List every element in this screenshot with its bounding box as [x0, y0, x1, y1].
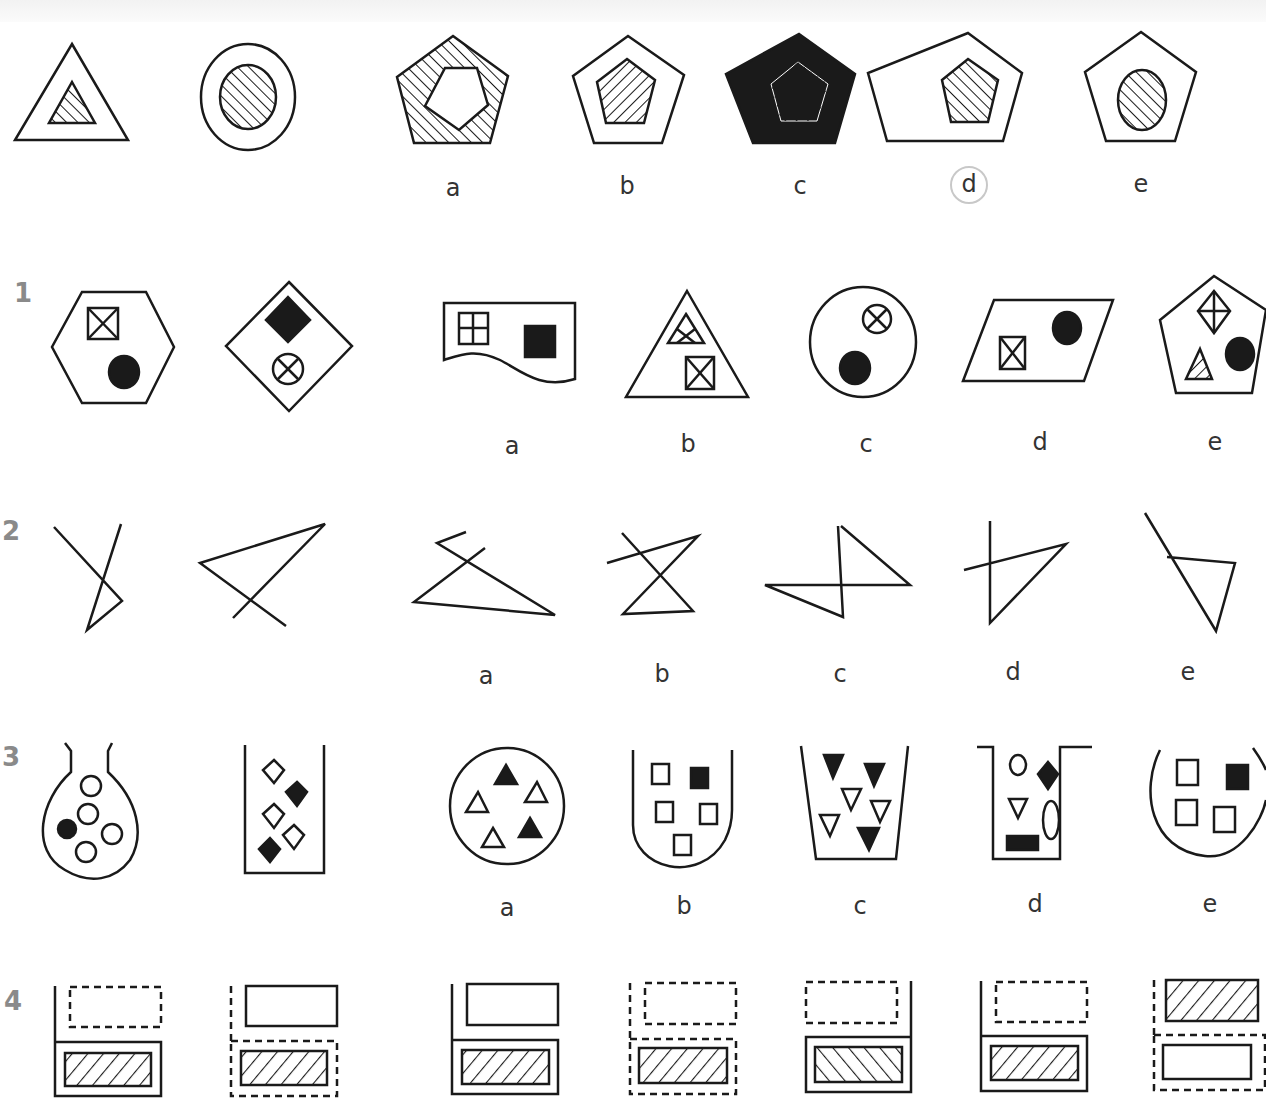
option-label-q1-e[interactable]: e — [1195, 428, 1235, 456]
option-label-q3-b[interactable]: b — [664, 892, 704, 920]
question-number-2: 2 — [2, 516, 20, 546]
q4-option-e[interactable] — [1154, 980, 1265, 1090]
option-label-q2-a[interactable]: a — [466, 662, 506, 690]
q2-stem-1 — [54, 524, 122, 630]
q4-option-b[interactable] — [630, 983, 736, 1094]
option-label-example-b[interactable]: b — [607, 172, 647, 200]
question-number-1: 1 — [14, 278, 32, 308]
q2-option-b[interactable] — [607, 533, 698, 614]
q2-stem-2 — [200, 524, 325, 626]
option-label-example-e[interactable]: e — [1121, 170, 1161, 198]
question-number-4: 4 — [4, 986, 22, 1016]
q3-stem-2 — [245, 745, 324, 873]
q3-option-b[interactable] — [633, 750, 732, 867]
option-label-q3-a[interactable]: a — [487, 894, 527, 922]
q3-option-d[interactable] — [977, 747, 1092, 859]
option-label-q2-d[interactable]: d — [993, 658, 1033, 686]
q3-option-a[interactable] — [450, 748, 564, 864]
option-label-q2-c[interactable]: c — [820, 660, 860, 688]
q1-option-a[interactable] — [444, 303, 575, 382]
question-number-3: 3 — [2, 742, 20, 772]
option-label-q1-c[interactable]: c — [846, 430, 886, 458]
example-option-e[interactable] — [1085, 32, 1196, 141]
option-label-example-a[interactable]: a — [433, 174, 473, 202]
example-stem-1 — [15, 44, 128, 140]
option-label-q3-d[interactable]: d — [1015, 890, 1055, 918]
option-label-q1-b[interactable]: b — [668, 430, 708, 458]
example-stem-2 — [201, 44, 295, 150]
q4-option-d[interactable] — [981, 981, 1087, 1091]
q4-option-a[interactable] — [452, 984, 558, 1094]
option-label-q1-a[interactable]: a — [492, 432, 532, 460]
q3-option-c[interactable] — [801, 746, 908, 859]
q3-stem-1 — [43, 743, 138, 879]
q1-option-d[interactable] — [963, 300, 1113, 381]
option-label-q1-d[interactable]: d — [1020, 428, 1060, 456]
q1-stem-2 — [226, 282, 352, 411]
puzzle-canvas — [0, 0, 1266, 1113]
q3-option-e[interactable] — [1150, 748, 1266, 856]
example-option-c[interactable] — [726, 34, 855, 143]
option-label-q2-b[interactable]: b — [642, 660, 682, 688]
option-label-q3-e[interactable]: e — [1190, 890, 1230, 918]
example-option-a[interactable] — [397, 36, 508, 143]
q1-option-c[interactable] — [810, 287, 916, 397]
q4-option-c[interactable] — [806, 981, 911, 1092]
q1-option-b[interactable] — [626, 291, 748, 397]
q4-stem-2 — [231, 986, 337, 1096]
q2-option-a[interactable] — [414, 532, 555, 615]
q2-option-e[interactable] — [1145, 513, 1235, 631]
option-label-example-c[interactable]: c — [780, 172, 820, 200]
example-option-b[interactable] — [573, 36, 684, 143]
q4-stem-1 — [55, 986, 161, 1096]
q1-option-e[interactable] — [1160, 276, 1266, 393]
option-label-q3-c[interactable]: c — [840, 892, 880, 920]
option-label-q2-e[interactable]: e — [1168, 658, 1208, 686]
option-label-example-d-selected[interactable]: d — [950, 166, 988, 204]
q2-option-d[interactable] — [964, 521, 1066, 623]
q2-option-c[interactable] — [765, 526, 910, 617]
example-option-d[interactable] — [868, 33, 1022, 141]
q1-stem-1 — [52, 292, 174, 403]
